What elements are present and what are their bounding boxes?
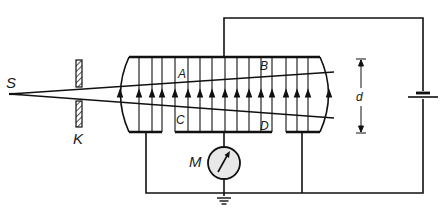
label-point-a: A (177, 67, 186, 81)
label-distance: d (356, 90, 363, 104)
label-meter: M (189, 153, 202, 170)
label-source: S (6, 74, 16, 91)
electrometer (208, 147, 240, 179)
collimator-plate (76, 60, 82, 127)
diagram-canvas: S K (0, 0, 445, 216)
battery (408, 93, 438, 97)
ground-icon (217, 198, 231, 204)
label-collimator: K (73, 130, 84, 147)
label-point-b: B (260, 59, 268, 73)
field-lines (118, 57, 332, 132)
label-point-c: C (176, 113, 185, 127)
label-point-d: D (260, 119, 269, 133)
